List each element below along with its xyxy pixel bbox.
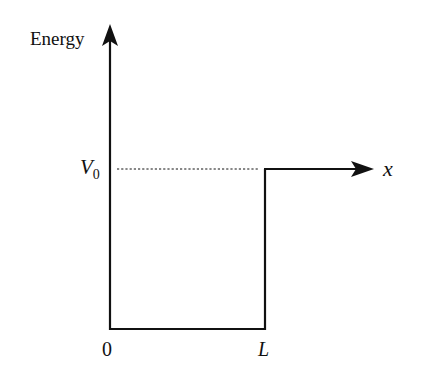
x-label: x bbox=[383, 156, 393, 182]
v0-subscript: 0 bbox=[93, 167, 100, 182]
energy-label: Energy bbox=[30, 28, 85, 50]
potential-diagram bbox=[0, 0, 426, 378]
v0-symbol: V bbox=[80, 155, 93, 179]
l-label: L bbox=[258, 338, 269, 361]
origin-label: 0 bbox=[102, 338, 112, 361]
v0-label: V0 bbox=[80, 155, 100, 183]
